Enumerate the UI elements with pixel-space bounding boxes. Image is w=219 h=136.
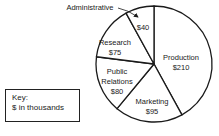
label-pr-value: $80	[111, 87, 124, 96]
label-production-name: Production	[163, 53, 199, 62]
key-text: $ in thousands	[12, 103, 73, 113]
key-title: Key:	[12, 93, 73, 103]
label-marketing-value: $95	[146, 107, 159, 116]
label-marketing-name: Marketing	[136, 97, 169, 106]
label-administrative-name: Administrative	[66, 3, 113, 12]
label-administrative-value: $40	[137, 23, 150, 32]
key-box: Key: $ in thousands	[5, 89, 80, 122]
label-pr-name2: Relations	[101, 77, 133, 86]
label-production-value: $210	[173, 63, 190, 72]
label-research-value: $75	[109, 48, 122, 57]
label-research-name: Research	[99, 38, 131, 47]
label-pr-name1: Public	[107, 67, 128, 76]
